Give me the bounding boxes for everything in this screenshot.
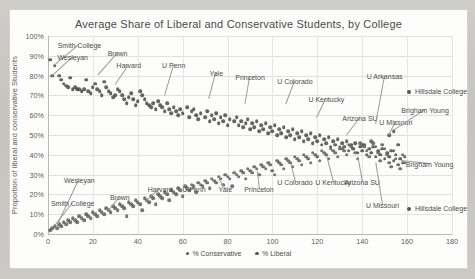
data-point[interactable] [93, 82, 97, 86]
data-point[interactable] [235, 115, 239, 119]
data-point[interactable] [123, 206, 127, 210]
data-point[interactable] [215, 111, 219, 115]
legend-item-conservative[interactable]: % Conservative [186, 250, 242, 257]
data-point[interactable] [300, 163, 304, 167]
data-point[interactable] [165, 102, 169, 106]
data-point[interactable] [224, 113, 228, 117]
data-point[interactable] [271, 129, 275, 133]
data-point[interactable] [147, 201, 151, 205]
data-point[interactable] [244, 121, 248, 125]
data-point[interactable] [318, 133, 322, 137]
data-point[interactable] [192, 107, 196, 111]
data-point[interactable] [100, 94, 104, 98]
data-point[interactable] [217, 121, 221, 125]
data-point[interactable] [385, 153, 389, 157]
data-point[interactable] [140, 208, 144, 212]
data-point[interactable] [246, 117, 250, 121]
data-point[interactable] [311, 141, 315, 145]
data-point[interactable] [102, 212, 106, 216]
data-point[interactable] [84, 78, 88, 82]
data-point[interactable] [82, 88, 86, 92]
data-point[interactable] [262, 127, 266, 131]
data-point[interactable] [109, 210, 113, 214]
data-point[interactable] [264, 121, 268, 125]
data-point[interactable] [114, 94, 118, 98]
data-point[interactable] [75, 220, 79, 224]
data-point[interactable] [302, 139, 306, 143]
data-point[interactable] [228, 177, 232, 181]
data-point[interactable] [374, 145, 378, 149]
data-point[interactable] [69, 76, 73, 80]
data-point[interactable] [215, 181, 219, 185]
data-point[interactable] [206, 181, 210, 185]
data-point[interactable] [152, 102, 156, 106]
data-point[interactable] [390, 165, 394, 169]
data-point[interactable] [125, 214, 129, 218]
data-point[interactable] [66, 86, 70, 90]
data-point[interactable] [170, 111, 174, 115]
data-point[interactable] [320, 143, 324, 147]
data-point[interactable] [96, 214, 100, 218]
data-point[interactable] [275, 133, 279, 137]
data-point[interactable] [318, 159, 322, 163]
data-point[interactable] [383, 147, 387, 151]
legend-item-liberal[interactable]: % Liberal [255, 250, 291, 257]
data-point[interactable] [354, 151, 358, 155]
data-point[interactable] [396, 143, 400, 147]
data-point[interactable] [392, 149, 396, 153]
data-point[interactable] [82, 218, 86, 222]
data-point[interactable] [309, 131, 313, 135]
data-point[interactable] [134, 104, 138, 108]
data-point[interactable] [165, 193, 169, 197]
data-point[interactable] [127, 96, 131, 100]
data-point[interactable] [163, 109, 167, 113]
data-point[interactable] [167, 199, 171, 203]
data-point[interactable] [255, 119, 259, 123]
data-point[interactable] [197, 117, 201, 121]
data-point[interactable] [289, 133, 293, 137]
data-point[interactable] [102, 80, 106, 84]
data-point[interactable] [188, 115, 192, 119]
data-point[interactable] [268, 163, 272, 167]
data-point[interactable] [250, 171, 254, 175]
data-point[interactable] [152, 197, 156, 201]
highlight-callout[interactable]: Hillsdale College [407, 205, 467, 212]
data-point[interactable] [199, 111, 203, 115]
data-point[interactable] [228, 117, 232, 121]
data-point[interactable] [367, 155, 371, 159]
data-point[interactable] [131, 204, 135, 208]
data-point[interactable] [149, 105, 153, 109]
data-point[interactable] [401, 153, 405, 157]
data-point[interactable] [176, 113, 180, 117]
data-point[interactable] [248, 127, 252, 131]
data-point[interactable] [336, 137, 340, 141]
data-point[interactable] [284, 135, 288, 139]
data-point[interactable] [354, 141, 358, 145]
data-point[interactable] [212, 117, 216, 121]
data-point[interactable] [241, 125, 245, 129]
data-point[interactable] [336, 155, 340, 159]
data-point[interactable] [327, 135, 331, 139]
data-point[interactable] [208, 119, 212, 123]
data-point[interactable] [69, 220, 73, 224]
data-point[interactable] [161, 197, 165, 201]
data-point[interactable] [300, 129, 304, 133]
data-point[interactable] [60, 224, 64, 228]
data-point[interactable] [309, 161, 313, 165]
data-point[interactable] [174, 193, 178, 197]
data-point[interactable] [129, 92, 133, 96]
data-point[interactable] [226, 123, 230, 127]
data-point[interactable] [282, 125, 286, 129]
data-point[interactable] [253, 125, 257, 129]
data-point[interactable] [89, 92, 93, 96]
data-point[interactable] [244, 177, 248, 181]
data-point[interactable] [181, 195, 185, 199]
data-point[interactable] [154, 203, 158, 207]
data-point[interactable] [273, 123, 277, 127]
data-point[interactable] [307, 137, 311, 141]
data-point[interactable] [383, 157, 387, 161]
data-point[interactable] [365, 149, 369, 153]
data-point[interactable] [266, 131, 270, 135]
data-point[interactable] [264, 167, 268, 171]
data-point[interactable] [116, 208, 120, 212]
